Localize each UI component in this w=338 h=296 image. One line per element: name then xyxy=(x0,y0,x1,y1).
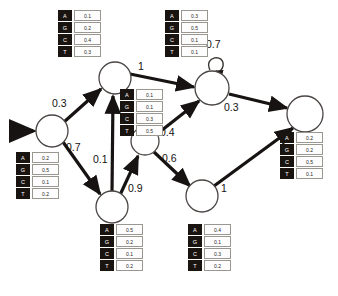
emission-value-a: 0.1 xyxy=(136,89,163,100)
emission-value-c: 0.1 xyxy=(32,176,59,187)
emission-table-start: A 0.2 G 0.5 C 0.1 T 0.2 xyxy=(16,152,59,199)
edge-start-to-top xyxy=(64,89,101,122)
emission-value-g: 0.1 xyxy=(136,101,163,112)
emission-value-t: 0.2 xyxy=(204,260,231,271)
edge-weight-bottom-to-top: 0.1 xyxy=(93,153,108,165)
emission-row: C 0.3 xyxy=(188,248,231,259)
emission-table-bottom: A 0.5 G 0.2 C 0.1 T 0.2 xyxy=(100,224,143,271)
emission-value-t: 0.1 xyxy=(296,168,323,179)
emission-row: G 0.2 xyxy=(58,22,101,33)
emission-value-a: 0.2 xyxy=(32,152,59,163)
edge-bottom-to-top xyxy=(112,96,113,192)
emission-value-t: 0.1 xyxy=(181,46,208,57)
edge-weight-start-to-bottom: 0.7 xyxy=(66,141,81,153)
emission-value-c: 0.1 xyxy=(181,34,208,45)
emission-value-t: 0.2 xyxy=(116,260,143,271)
emission-symbol-a: A xyxy=(58,10,72,21)
emission-table-middle: A 0.1 G 0.1 C 0.3 T 0.5 xyxy=(120,89,163,136)
emission-row: A 0.2 xyxy=(16,152,59,163)
hmm-diagram-canvas: 0.3 0.7 0.1 0.9 1 0.4 0.6 0.7 0.3 1 A 0.… xyxy=(0,0,338,296)
emission-symbol-g: G xyxy=(100,236,114,247)
emission-value-c: 0.5 xyxy=(296,156,323,167)
emission-symbol-c: C xyxy=(120,113,134,124)
emission-row: G 0.2 xyxy=(280,144,323,155)
emission-value-g: 0.5 xyxy=(181,22,208,33)
emission-symbol-a: A xyxy=(188,224,202,235)
emission-row: T 0.2 xyxy=(100,260,143,271)
emission-row: C 0.5 xyxy=(280,156,323,167)
emission-symbol-t: T xyxy=(16,188,30,199)
emission-row: T 0.3 xyxy=(58,46,101,57)
emission-value-c: 0.1 xyxy=(116,248,143,259)
emission-value-g: 0.2 xyxy=(116,236,143,247)
emission-symbol-c: C xyxy=(188,248,202,259)
state-node-start[interactable] xyxy=(36,115,68,147)
emission-row: A 0.1 xyxy=(120,89,163,100)
state-node-end[interactable] xyxy=(287,96,323,132)
state-node-upper[interactable] xyxy=(195,71,229,105)
emission-symbol-a: A xyxy=(280,132,294,143)
emission-value-t: 0.5 xyxy=(136,125,163,136)
emission-symbol-a: A xyxy=(120,89,134,100)
emission-value-g: 0.5 xyxy=(32,164,59,175)
emission-row: G 0.1 xyxy=(188,236,231,247)
emission-symbol-c: C xyxy=(58,34,72,45)
emission-symbol-c: C xyxy=(280,156,294,167)
emission-row: G 0.1 xyxy=(120,101,163,112)
emission-symbol-t: T xyxy=(100,260,114,271)
emission-symbol-t: T xyxy=(188,260,202,271)
emission-row: C 0.4 xyxy=(58,34,101,45)
emission-row: T 0.1 xyxy=(280,168,323,179)
emission-symbol-t: T xyxy=(165,46,179,57)
emission-row: A 0.2 xyxy=(280,132,323,143)
emission-symbol-g: G xyxy=(16,164,30,175)
emission-table-end: A 0.2 G 0.2 C 0.5 T 0.1 xyxy=(280,132,323,179)
emission-value-t: 0.2 xyxy=(32,188,59,199)
emission-row: C 0.1 xyxy=(100,248,143,259)
emission-value-a: 0.4 xyxy=(204,224,231,235)
emission-table-upper: A 0.3 G 0.5 C 0.1 T 0.1 xyxy=(165,10,208,57)
state-node-lower[interactable] xyxy=(186,180,218,212)
emission-row: G 0.2 xyxy=(100,236,143,247)
emission-value-t: 0.3 xyxy=(74,46,101,57)
emission-table-lower: A 0.4 G 0.1 C 0.3 T 0.2 xyxy=(188,224,231,271)
emission-symbol-c: C xyxy=(100,248,114,259)
edge-weight-middle-to-lower: 0.6 xyxy=(162,152,177,164)
emission-symbol-g: G xyxy=(120,101,134,112)
emission-value-a: 0.2 xyxy=(296,132,323,143)
emission-row: T 0.5 xyxy=(120,125,163,136)
emission-row: T 0.1 xyxy=(165,46,208,57)
state-node-bottom[interactable] xyxy=(96,191,128,223)
emission-symbol-t: T xyxy=(120,125,134,136)
emission-row: C 0.1 xyxy=(16,176,59,187)
emission-symbol-g: G xyxy=(58,22,72,33)
emission-symbol-a: A xyxy=(165,10,179,21)
emission-value-g: 0.2 xyxy=(296,144,323,155)
emission-symbol-a: A xyxy=(100,224,114,235)
emission-row: A 0.5 xyxy=(100,224,143,235)
emission-value-a: 0.5 xyxy=(116,224,143,235)
edge-weight-upper-self-loop: 0.7 xyxy=(206,38,221,50)
emission-row: A 0.1 xyxy=(58,10,101,21)
emission-symbol-c: C xyxy=(165,34,179,45)
edge-weight-upper-to-end: 0.3 xyxy=(224,101,239,113)
emission-row: T 0.2 xyxy=(188,260,231,271)
emission-value-c: 0.3 xyxy=(136,113,163,124)
emission-value-a: 0.3 xyxy=(181,10,208,21)
emission-symbol-g: G xyxy=(165,22,179,33)
emission-row: C 0.3 xyxy=(120,113,163,124)
emission-value-g: 0.2 xyxy=(74,22,101,33)
emission-symbol-g: G xyxy=(280,144,294,155)
emission-symbol-t: T xyxy=(58,46,72,57)
emission-row: G 0.5 xyxy=(165,22,208,33)
emission-value-g: 0.1 xyxy=(204,236,231,247)
emission-row: A 0.3 xyxy=(165,10,208,21)
emission-row: C 0.1 xyxy=(165,34,208,45)
emission-symbol-a: A xyxy=(16,152,30,163)
edge-weight-bottom-to-middle: 0.9 xyxy=(128,182,143,194)
emission-value-c: 0.3 xyxy=(204,248,231,259)
edge-weight-top-to-upper: 1 xyxy=(138,60,144,72)
emission-value-c: 0.4 xyxy=(74,34,101,45)
emission-table-top: A 0.1 G 0.2 C 0.4 T 0.3 xyxy=(58,10,101,57)
emission-row: T 0.2 xyxy=(16,188,59,199)
